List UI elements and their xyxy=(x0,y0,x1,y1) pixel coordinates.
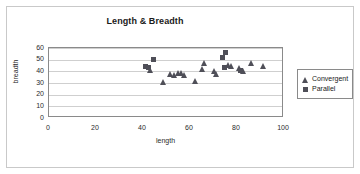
chart-legend: Convergent Parallel xyxy=(297,69,353,99)
triangle-marker-icon xyxy=(260,63,266,69)
y-axis-label: breadth xyxy=(12,49,19,95)
legend-item-label: Parallel xyxy=(310,85,335,93)
triangle-marker-icon xyxy=(199,66,205,72)
triangle-marker-icon xyxy=(248,60,254,66)
chart-container: Length & Breadth breadth length 01020304… xyxy=(0,0,360,174)
y-axis-tick-60: 60 xyxy=(26,44,44,51)
x-axis-tick-0: 0 xyxy=(36,124,60,131)
chart-title: Length & Breadth xyxy=(0,16,290,26)
triangle-marker-icon xyxy=(228,63,234,69)
triangle-marker-icon xyxy=(301,75,310,84)
square-marker-icon xyxy=(223,50,228,55)
plot-area xyxy=(48,47,283,117)
triangle-marker-icon xyxy=(201,60,207,66)
square-marker-icon xyxy=(222,65,227,70)
x-axis-tick-20: 20 xyxy=(83,124,107,131)
square-marker-icon xyxy=(301,85,310,94)
square-marker-icon xyxy=(151,57,156,62)
x-axis-label: length xyxy=(48,137,283,144)
square-marker-icon xyxy=(220,55,225,60)
y-axis-tick-20: 20 xyxy=(26,90,44,97)
legend-item-parallel[interactable]: Parallel xyxy=(301,84,348,94)
triangle-marker-icon xyxy=(192,78,198,84)
y-axis-tick-30: 30 xyxy=(26,79,44,86)
triangle-marker-icon xyxy=(181,72,187,78)
y-axis-tick-50: 50 xyxy=(26,55,44,62)
y-axis-tick-0: 0 xyxy=(26,114,44,121)
x-axis-tick-60: 60 xyxy=(177,124,201,131)
x-axis-tick-40: 40 xyxy=(130,124,154,131)
triangle-marker-icon xyxy=(213,71,219,77)
square-marker-icon xyxy=(146,65,151,70)
data-points-layer xyxy=(49,48,282,116)
y-axis-tick-10: 10 xyxy=(26,102,44,109)
legend-item-convergent[interactable]: Convergent xyxy=(301,74,348,84)
square-marker-icon xyxy=(238,68,243,73)
x-axis-tick-80: 80 xyxy=(224,124,248,131)
triangle-marker-icon xyxy=(160,79,166,85)
legend-item-label: Convergent xyxy=(310,75,348,83)
y-axis-tick-40: 40 xyxy=(26,67,44,74)
x-axis-tick-100: 100 xyxy=(271,124,295,131)
